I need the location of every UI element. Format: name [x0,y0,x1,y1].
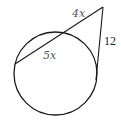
circle [14,32,97,115]
chord-segment-label: 5x [43,49,57,62]
secant-tangent-diagram: 4x 5x 12 [0,0,121,121]
tangent-line [96,7,103,80]
external-segment-label: 4x [71,7,86,20]
tangent-length-label: 12 [104,34,116,48]
secant-line [15,7,103,64]
